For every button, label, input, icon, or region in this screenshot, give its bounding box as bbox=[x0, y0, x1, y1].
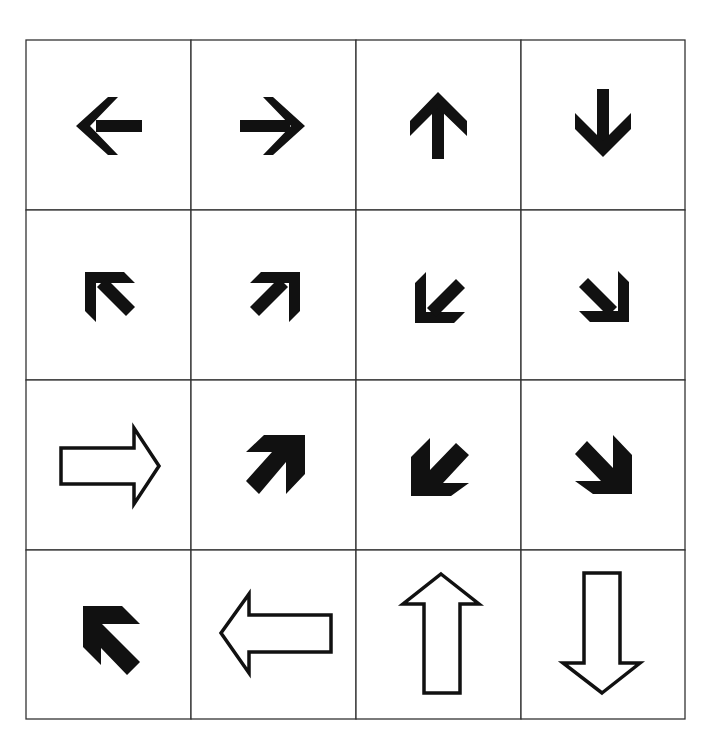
grid-cell-r1c2 bbox=[191, 40, 356, 210]
grid-cell-r4c4 bbox=[521, 550, 685, 719]
grid-cell-r4c2 bbox=[191, 550, 356, 719]
grid-cell-r2c2 bbox=[191, 210, 356, 380]
arrow-grid bbox=[0, 0, 714, 745]
grid-cell-r3c4 bbox=[521, 380, 685, 550]
grid-cell-r3c2 bbox=[191, 380, 356, 550]
grid-cell-r1c1 bbox=[26, 40, 191, 210]
grid-cell-r1c3 bbox=[356, 40, 521, 210]
grid-cell-r3c1 bbox=[26, 380, 191, 550]
grid-cell-r2c3 bbox=[356, 210, 521, 380]
grid-cell-r3c3 bbox=[356, 380, 521, 550]
grid-cell-r1c4 bbox=[521, 40, 685, 210]
grid-cell-r4c3 bbox=[356, 550, 521, 719]
grid-cell-r2c1 bbox=[26, 210, 191, 380]
grid-cell-r2c4 bbox=[521, 210, 685, 380]
grid-cell-r4c1 bbox=[26, 550, 191, 719]
